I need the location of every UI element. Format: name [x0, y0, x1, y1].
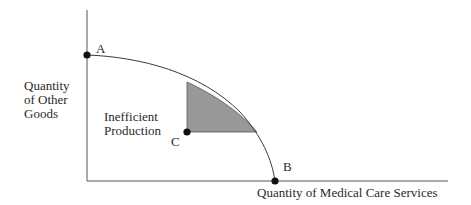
y-axis-label-line3: Goods	[24, 107, 58, 121]
point-b-label: B	[283, 160, 292, 174]
point-c-label: C	[171, 135, 180, 149]
point-a	[83, 51, 90, 58]
region-label-line2: Production	[104, 124, 161, 138]
region-label-line1: Inefficient	[104, 110, 158, 124]
x-axis-label: Quantity of Medical Care Services	[257, 186, 438, 200]
y-axis-label-line2: of Other	[24, 93, 68, 107]
ppf-diagram	[0, 0, 471, 205]
point-b	[271, 177, 278, 184]
y-axis-label-line1: Quantity	[24, 79, 70, 93]
shaded-region	[187, 82, 257, 132]
point-a-label: A	[96, 42, 105, 56]
point-c	[183, 128, 190, 135]
